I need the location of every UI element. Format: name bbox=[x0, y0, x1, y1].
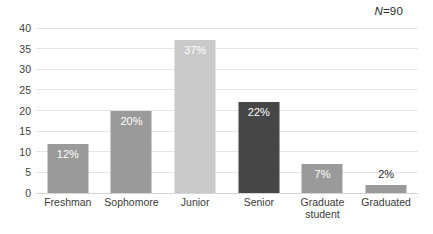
bar-slot: 2% bbox=[354, 28, 418, 193]
y-axis: 0510152025303540 bbox=[0, 28, 36, 193]
bar-data-label: 37% bbox=[175, 45, 216, 56]
bar-slot: 7% bbox=[291, 28, 355, 193]
x-axis-category-label: Freshman bbox=[36, 196, 100, 208]
bar[interactable]: 12% bbox=[47, 144, 88, 194]
bar[interactable]: 7% bbox=[302, 164, 343, 193]
bar-data-label: 7% bbox=[302, 169, 343, 180]
bar-data-label: 20% bbox=[111, 116, 152, 127]
y-axis-tick-label: 25 bbox=[7, 85, 31, 96]
bar-slot: 20% bbox=[100, 28, 164, 193]
y-axis-tick-label: 5 bbox=[7, 167, 31, 178]
x-axis-category-label: Senior bbox=[227, 196, 291, 208]
bar-chart: N=90 0510152025303540 12%20%37%22%7%2% F… bbox=[0, 0, 433, 234]
y-axis-tick-label: 40 bbox=[7, 23, 31, 34]
bar-series: 12%20%37%22%7%2% bbox=[36, 28, 418, 193]
sample-size-annotation: N=90 bbox=[374, 5, 403, 17]
bar-slot: 12% bbox=[36, 28, 100, 193]
bar-data-label: 2% bbox=[354, 169, 418, 180]
bar[interactable]: 22% bbox=[238, 102, 279, 193]
sample-size-value: =90 bbox=[383, 5, 403, 17]
x-axis-category-label: Graduate student bbox=[291, 196, 355, 220]
y-axis-tick-label: 35 bbox=[7, 44, 31, 55]
sample-size-symbol: N bbox=[374, 5, 383, 17]
bar-slot: 37% bbox=[163, 28, 227, 193]
x-axis-category-labels: FreshmanSophomoreJuniorSeniorGraduate st… bbox=[36, 196, 418, 232]
bar-data-label: 22% bbox=[238, 107, 279, 118]
x-axis-category-label: Sophomore bbox=[100, 196, 164, 208]
y-axis-tick-label: 30 bbox=[7, 64, 31, 75]
bar[interactable] bbox=[366, 185, 407, 193]
x-axis-category-label: Graduated bbox=[354, 196, 418, 208]
y-axis-tick-label: 15 bbox=[7, 126, 31, 137]
bar-data-label: 12% bbox=[47, 149, 88, 160]
y-axis-tick-label: 10 bbox=[7, 147, 31, 158]
bar-slot: 22% bbox=[227, 28, 291, 193]
bar[interactable]: 20% bbox=[111, 111, 152, 194]
x-axis-category-label: Junior bbox=[163, 196, 227, 208]
y-axis-tick-label: 20 bbox=[7, 106, 31, 117]
bar[interactable]: 37% bbox=[175, 40, 216, 193]
y-axis-tick-label: 0 bbox=[7, 188, 31, 199]
